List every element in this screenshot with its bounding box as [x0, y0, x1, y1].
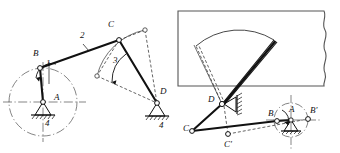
joint-B-pin-right — [275, 119, 280, 124]
label-joint-C-prime: C' — [224, 139, 233, 149]
crank-rotation-arrowhead — [36, 77, 41, 82]
ground-support-D-right — [224, 93, 242, 115]
label-joint-B-prime: B' — [310, 105, 318, 115]
wiper-sweep-arc — [196, 30, 274, 46]
right-wiper-application — [178, 11, 326, 150]
label-joint-C-right: C — [183, 123, 190, 133]
label-link-4-right: 4 — [159, 120, 164, 130]
wiper-arm-outline-a — [222, 40, 274, 104]
label-link-1: 1 — [46, 58, 51, 68]
joint-C-pin-right — [190, 129, 195, 134]
label-link-4-left: 4 — [45, 118, 50, 128]
mechanism-drawing: B A C D 1 2 3 4 4 D C C' B A B' — [0, 0, 340, 153]
link-2-leader — [83, 44, 89, 51]
label-joint-D-right: D — [207, 94, 215, 104]
label-joint-A-right: A — [288, 104, 295, 114]
label-layer: B A C D 1 2 3 4 4 D C C' B A B' — [33, 19, 318, 149]
joint-C-prime-pin — [226, 132, 231, 137]
joint-A-pin — [41, 100, 46, 105]
left-four-bar-mechanism — [3, 28, 169, 142]
wiper-blade — [224, 41, 276, 104]
label-joint-B-right: B — [268, 108, 274, 118]
wiper-arm-outline-b — [225, 42, 277, 104]
rocker-alt-DC-prime — [224, 106, 228, 134]
joint-C-alt-right-pin — [143, 28, 147, 32]
joint-A-pin-right — [289, 118, 293, 122]
joint-B-pin — [38, 66, 43, 71]
label-joint-D-left: D — [159, 86, 167, 96]
joint-D-pin-right — [219, 101, 224, 106]
link-3-rocker-CD — [119, 40, 157, 103]
joint-C-alt-left-pin — [95, 74, 99, 78]
joint-D-pin — [155, 101, 160, 106]
link-alt-top-dashed — [119, 30, 145, 40]
label-link-2: 2 — [80, 30, 85, 40]
rocker-swing-arc — [97, 30, 145, 76]
joint-B-prime-pin — [306, 117, 311, 122]
figure-canvas: B A C D 1 2 3 4 4 D C C' B A B' — [0, 0, 340, 153]
label-joint-B-left: B — [33, 48, 39, 58]
joint-C-pin — [117, 38, 122, 43]
label-link-3: 3 — [112, 55, 118, 65]
label-joint-A-left: A — [53, 92, 60, 102]
coupler-CB — [192, 121, 277, 131]
label-joint-C-left: C — [108, 19, 115, 29]
link-1-crank-AB — [40, 68, 43, 102]
